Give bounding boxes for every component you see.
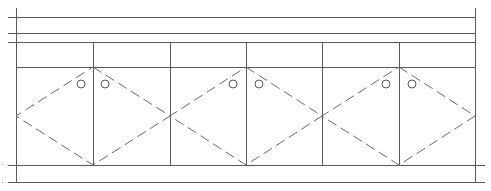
handle-hole-icon: [101, 80, 109, 88]
swing-diamond: [322, 67, 475, 165]
handle-hole-icon: [229, 80, 237, 88]
door-panels: [16, 67, 475, 165]
edge-mark-1: [2, 164, 3, 165]
handle-hole-icon: [77, 80, 85, 88]
handle-hole-icon: [255, 80, 263, 88]
handle-hole-icon: [408, 80, 416, 88]
handle-hole-icon: [382, 80, 390, 88]
elevation-drawing: [0, 0, 491, 191]
vertical-posts: [94, 42, 400, 165]
panel-3: [322, 67, 475, 165]
edge-mark-2: [2, 182, 3, 183]
edge-marks: [2, 164, 3, 183]
